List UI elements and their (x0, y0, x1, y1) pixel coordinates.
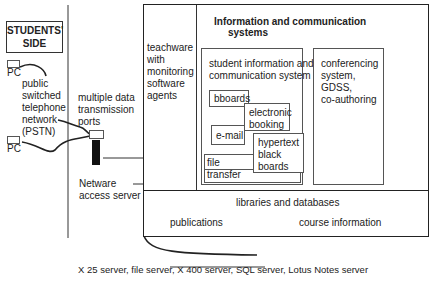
ics-title: Information and communication systems (214, 16, 366, 38)
module-hypertext-blackboards: hypertext black boards (253, 133, 304, 173)
students-side-label-box: STUDENTS' SIDE (6, 21, 63, 53)
ports-line: multiple data (78, 92, 135, 104)
email-label: e-mail (216, 130, 243, 141)
server-line: Netware (79, 178, 141, 190)
pstn-line: (PSTN) (22, 126, 66, 138)
file-transfer-label: file transfer (207, 157, 241, 180)
ics-title-line: systems (214, 27, 366, 38)
teachware-line: agents (147, 90, 194, 102)
teachware-line: with (147, 54, 194, 66)
booking-line: booking (249, 119, 289, 131)
ports-line: ports (78, 116, 135, 128)
libraries-publications: publications (170, 217, 223, 229)
conferencing-line: system, (321, 70, 383, 82)
servers-caption: X 25 server, file server, X 400 server, … (78, 264, 368, 276)
ics-title-line: Information and communication (214, 16, 366, 27)
netware-server-bar (92, 140, 100, 165)
teachware-label: teachware with monitoring software agent… (147, 42, 194, 102)
hypertext-line: black (258, 149, 303, 161)
module-bboards: bboards (209, 90, 249, 107)
teachware-divider (196, 5, 197, 191)
pc-bottom-label: PC (7, 143, 21, 155)
hypertext-line: hypertext (258, 137, 303, 149)
hypertext-line: boards (258, 161, 303, 173)
libraries-course-information: course information (299, 217, 381, 229)
conferencing-line: GDSS, (321, 82, 383, 94)
ports-line: transmission (78, 104, 135, 116)
student-ics-line: communication system (209, 70, 314, 82)
pstn-line: switched (22, 90, 66, 102)
students-side-line2: SIDE (7, 37, 62, 50)
ports-box (89, 130, 104, 139)
libraries-title: libraries and databases (236, 197, 339, 209)
teachware-line: software (147, 78, 194, 90)
teachware-line: monitoring (147, 66, 194, 78)
student-ics-line: student information and (209, 58, 314, 70)
pc-top-label: PC (7, 67, 21, 79)
conferencing-line: conferencing (321, 58, 383, 70)
teachware-line: teachware (147, 42, 194, 54)
netware-server-label: Netware access server (79, 178, 141, 202)
ports-label: multiple data transmission ports (78, 92, 135, 128)
student-ics-title: student information and communication sy… (209, 58, 314, 82)
conferencing-box: conferencing system, GDSS, co-authoring (313, 48, 384, 185)
pstn-line: network (22, 114, 66, 126)
pstn-label: public switched telephone network (PSTN) (22, 78, 66, 138)
module-file-transfer: file transfer (204, 154, 254, 170)
pstn-line: public (22, 78, 66, 90)
module-electronic-booking: electronic booking (244, 103, 290, 131)
pstn-line: telephone (22, 102, 66, 114)
conferencing-line: co-authoring (321, 94, 383, 106)
students-side-line1: STUDENTS' (7, 24, 62, 37)
libraries-divider (143, 190, 429, 191)
module-email: e-mail (211, 125, 245, 145)
booking-line: electronic (249, 107, 289, 119)
server-line: access server (79, 190, 141, 202)
